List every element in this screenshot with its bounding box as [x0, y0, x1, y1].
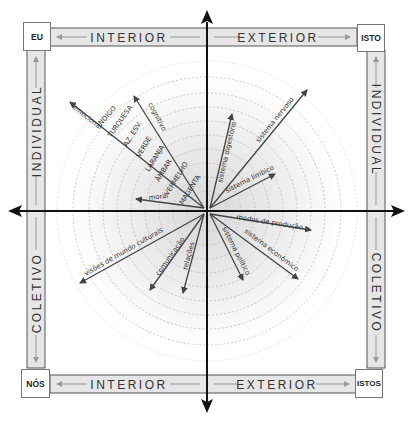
corner-istos: ISTOS — [355, 369, 383, 398]
bottom-left-bar-label: INTERIOR — [90, 378, 167, 392]
corner-isto: ISTO — [357, 24, 385, 52]
right-bottom-bar-label: COLETIVO — [369, 253, 383, 334]
corner-nos: NÓS — [21, 369, 50, 398]
left-bottom-bar-label: COLETIVO — [30, 253, 44, 334]
right-top-bar-label: INDIVIDUAL — [369, 84, 383, 176]
aqal-diagram: INTERIOR EXTERIOR INTERIOR EXTERIOR INDI… — [0, 0, 412, 423]
axis-up-arrow-icon — [201, 10, 213, 24]
top-left-bar-label: INTERIOR — [90, 31, 167, 45]
main-axes — [8, 10, 405, 413]
top-right-bar-label: EXTERIOR — [237, 31, 318, 45]
left-top-bar-label: INDIVIDUAL — [30, 85, 44, 177]
bottom-right-bar-label: EXTERIOR — [236, 378, 317, 392]
corner-eu: EU — [23, 22, 51, 51]
